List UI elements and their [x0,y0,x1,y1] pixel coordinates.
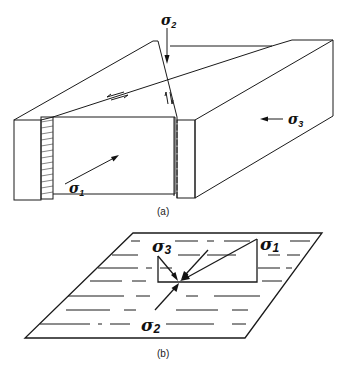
oblique-fault-trace [53,46,272,117]
sigma1-arrow-icon-b [180,239,257,281]
sigma2-label-a: σ2 [161,12,176,30]
stress-diagram-figure: σ2 σ3 σ1 (a) [0,0,339,368]
sigma2-arrow-icon-b [155,283,179,310]
left-end-block [14,120,41,200]
caption-b: (b) [157,348,169,359]
top-back-corner [272,40,292,46]
panel-b-plane-diagram: σ3 σ1 σ2 (b) [25,233,322,359]
sigma1-label-b: σ1 [260,234,280,255]
left-fault-hatching [41,120,53,194]
sigma3-label-b: σ3 [152,236,172,257]
top-left-back-edge [14,41,153,120]
sigma2-arrow-icon [165,28,170,64]
panel-a-block-diagram: σ2 σ3 σ1 (a) [14,12,333,217]
caption-a: (a) [157,206,169,217]
sigma3-label-a: σ3 [288,111,303,129]
right-end-block-front [177,120,195,198]
sigma3-arrow-icon [260,117,283,122]
sigma1-label-a: σ1 [69,180,84,198]
sigma2-label-b: σ2 [141,315,161,336]
